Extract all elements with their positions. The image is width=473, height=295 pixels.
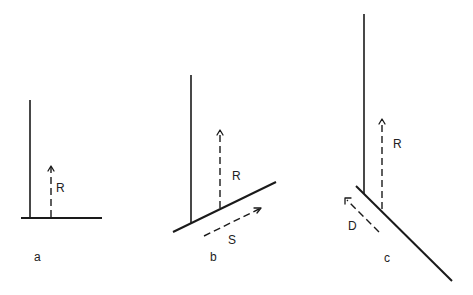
arrowhead-diagonal-up-left-icon (345, 198, 351, 204)
panel-a-caption: a (34, 250, 41, 264)
panel-b-vector-r: R (217, 130, 241, 208)
panel-c-d-label: D (348, 219, 357, 233)
panel-b-caption: b (210, 250, 217, 264)
arrowhead-up-icon (217, 130, 223, 135)
panel-a: R a (21, 100, 102, 264)
vector-diagram: R a R S b R D c (0, 0, 473, 295)
panel-b-s-label: S (228, 233, 236, 247)
panel-c-vector-r: R (379, 119, 402, 209)
panel-b-slanted-base-line (173, 182, 276, 232)
arrowhead-up-icon (379, 119, 385, 124)
panel-b-r-label: R (232, 169, 241, 183)
panel-a-vector-r: R (48, 166, 65, 217)
panel-b: R S b (173, 75, 276, 264)
panel-c-slanted-base-line (356, 186, 452, 281)
panel-c: R D c (345, 14, 452, 281)
panel-c-r-label: R (393, 137, 402, 151)
panel-c-caption: c (384, 251, 390, 265)
panel-a-r-label: R (56, 181, 65, 195)
